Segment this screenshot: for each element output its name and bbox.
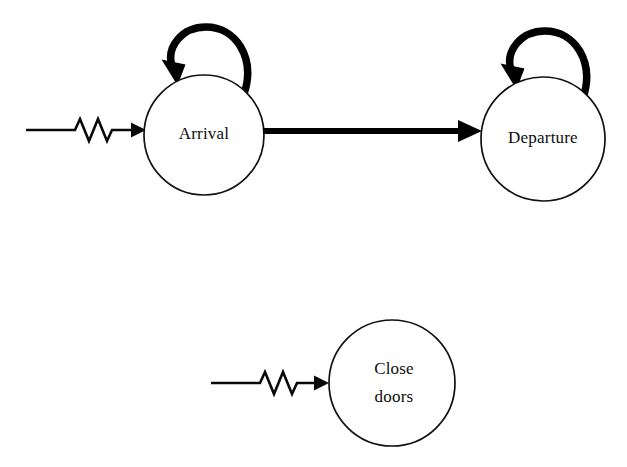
arrowhead-icon xyxy=(314,376,329,391)
state-node-departure[interactable]: Departure xyxy=(481,77,605,201)
entry-close-doors-zigzag-arrow[interactable] xyxy=(211,372,329,394)
arrowhead-icon xyxy=(458,120,482,142)
state-label-close-doors-line2: doors xyxy=(375,387,414,406)
zigzag-line-icon xyxy=(211,372,316,394)
state-diagram-svg: Arrival Departure Close doors xyxy=(0,0,627,467)
state-node-arrival[interactable]: Arrival xyxy=(144,75,264,195)
state-label-close-doors-line1: Close xyxy=(374,359,414,378)
zigzag-line-icon xyxy=(26,119,133,141)
state-circle-close-doors xyxy=(329,320,455,446)
state-label-arrival: Arrival xyxy=(179,124,230,143)
state-node-close-doors[interactable]: Close doors xyxy=(329,320,455,446)
state-label-departure: Departure xyxy=(508,128,578,147)
entry-arrival-zigzag-arrow[interactable] xyxy=(26,119,146,141)
state-diagram-canvas: Arrival Departure Close doors xyxy=(0,0,627,467)
transition-arrival-to-departure[interactable] xyxy=(263,120,482,142)
